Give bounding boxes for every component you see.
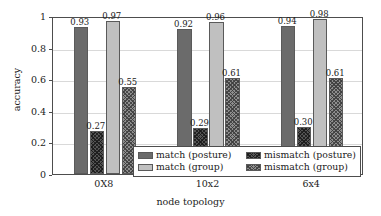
legend-swatch-icon <box>246 164 261 171</box>
bar-value-label: 0.98 <box>310 9 329 19</box>
y-tick-label: 0.6 <box>31 74 46 85</box>
legend-entry: match (group) <box>138 161 242 173</box>
y-tick-label: 0.2 <box>31 137 46 148</box>
bar-chart-figure: accuracy 00.20.40.60.81 0.930.270.970.55… <box>0 0 381 216</box>
bar <box>74 27 89 174</box>
bar-value-label: 0.61 <box>326 68 345 78</box>
legend-label: match (posture) <box>156 149 232 161</box>
bar-value-label: 0.92 <box>174 19 193 29</box>
bar-value-label: 0.61 <box>222 68 241 78</box>
bar <box>90 131 105 174</box>
legend-swatch-icon <box>246 152 261 159</box>
x-tick-label: 6x4 <box>302 178 319 189</box>
bar-value-label: 0.55 <box>118 77 137 87</box>
bar-value-label: 0.93 <box>70 17 89 27</box>
bar-value-label: 0.97 <box>102 11 121 21</box>
legend-entry: mismatch (posture) <box>246 149 356 161</box>
x-tick-label: 0X8 <box>94 178 113 189</box>
bar-value-label: 0.96 <box>206 12 225 22</box>
legend-label: match (group) <box>156 161 223 173</box>
bar-value-label: 0.30 <box>294 117 313 127</box>
legend-label: mismatch (posture) <box>264 149 356 161</box>
x-axis-title: node topology <box>0 196 381 207</box>
y-tick-mark <box>49 175 52 176</box>
bar <box>106 21 121 174</box>
bar-value-label: 0.27 <box>86 121 105 131</box>
legend-entry: mismatch (group) <box>246 161 356 173</box>
bar-value-label: 0.94 <box>278 16 297 26</box>
y-tick-label: 0.4 <box>31 106 46 117</box>
legend-label: mismatch (group) <box>264 161 348 173</box>
y-axis-title: accuracy <box>11 50 22 130</box>
y-tick-label: 1 <box>40 11 46 22</box>
y-tick-label: 0 <box>40 169 46 180</box>
legend-swatch-icon <box>138 164 153 171</box>
legend-entry: match (posture) <box>138 149 242 161</box>
legend-swatch-icon <box>138 152 153 159</box>
x-tick-label: 10x2 <box>196 178 220 189</box>
y-tick-label: 0.8 <box>31 43 46 54</box>
bar-value-label: 0.29 <box>190 118 209 128</box>
chart-legend: match (posture)mismatch (posture)match (… <box>133 146 361 177</box>
